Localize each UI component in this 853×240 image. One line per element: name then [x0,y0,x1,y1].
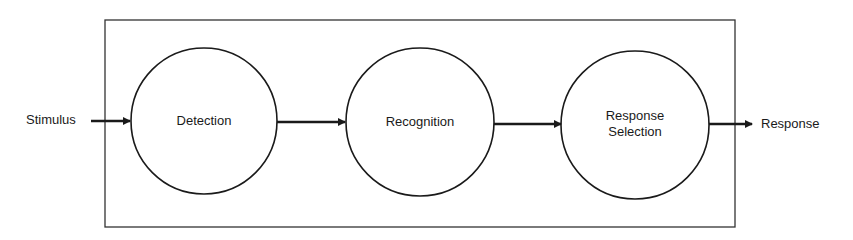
response-selection-label-line2: Selection [575,124,695,140]
recognition-label: Recognition [360,114,480,130]
stimulus-label: Stimulus [26,112,76,128]
response-selection-label-line1: Response [575,108,695,124]
response-selection-label: Response Selection [575,108,695,140]
detection-label: Detection [144,113,264,129]
response-output-label: Response [761,116,820,132]
